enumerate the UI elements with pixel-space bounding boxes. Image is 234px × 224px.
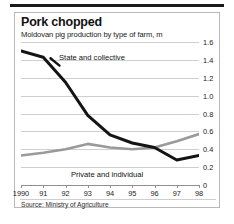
x-axis-tick-label: 91	[39, 189, 47, 198]
x-axis-tick-mark	[88, 185, 89, 188]
plot-area	[21, 42, 199, 185]
series-canvas	[21, 42, 199, 185]
series-label-state-and-collective: State and collective	[59, 53, 125, 62]
y-axis-tick-label: 1.0	[203, 91, 213, 100]
y-axis-tick-label: 0.8	[203, 109, 213, 118]
x-axis-tick-label: 92	[61, 189, 69, 198]
chart-panel: Pork chopped Moldovan pig production by …	[14, 12, 220, 208]
x-axis-tick-mark	[155, 185, 156, 188]
x-axis-tick-mark	[199, 185, 200, 188]
x-axis-tick-label: 96	[150, 189, 158, 198]
x-axis-tick-mark	[132, 185, 133, 188]
series-label-private-and-individual: Private and individual	[71, 170, 143, 179]
y-axis-tick-label: 1.6	[203, 38, 213, 47]
y-axis-tick-label: 0.6	[203, 127, 213, 136]
chart-title: Pork chopped	[21, 16, 102, 29]
chart-source: Source: Ministry of Agriculture	[21, 201, 109, 208]
source-divider	[20, 199, 216, 200]
x-axis-tick-mark	[43, 185, 44, 188]
y-axis-tick-label: 0.4	[203, 145, 213, 154]
chart-figure: Pork chopped Moldovan pig production by …	[0, 0, 234, 224]
x-axis-tick-mark	[110, 185, 111, 188]
x-axis-tick-mark	[177, 185, 178, 188]
x-axis-tick-label: 95	[128, 189, 136, 198]
y-axis-tick-label: 0.2	[203, 163, 213, 172]
x-axis-tick-label: 1990	[13, 189, 29, 198]
y-axis-tick-label: 1.2	[203, 73, 213, 82]
x-axis-tick-label: 97	[173, 189, 181, 198]
x-axis-tick-mark	[66, 185, 67, 188]
x-axis-tick-label: 94	[106, 189, 114, 198]
y-axis-tick-label: 0	[203, 181, 207, 190]
y-axis: 1.61.41.21.00.80.60.40.20	[201, 42, 223, 185]
chart-subtitle: Moldovan pig production by type of farm,…	[21, 30, 162, 39]
series-line-private-and-individual	[21, 134, 199, 155]
x-axis-tick-mark	[21, 185, 22, 188]
y-axis-tick-label: 1.4	[203, 55, 213, 64]
top-rule-divider	[10, 4, 224, 7]
x-axis-tick-label: 98	[195, 189, 203, 198]
x-axis-tick-label: 93	[84, 189, 92, 198]
